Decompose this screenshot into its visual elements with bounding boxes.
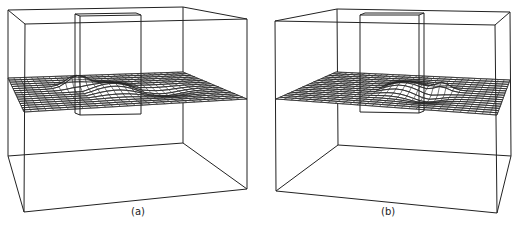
inner-block-side-edge — [75, 113, 80, 115]
inner-block-side-edge — [419, 111, 424, 113]
box-connect-edge — [275, 9, 337, 21]
box-connect-edge — [183, 7, 247, 19]
box-back-bottom-edge — [8, 143, 183, 156]
box-back-right-edge — [510, 12, 511, 156]
mesh-surface — [8, 72, 247, 112]
box-back-top-edge — [337, 9, 510, 12]
box-connect-edge — [183, 143, 247, 189]
box-front-left-edge — [24, 24, 25, 212]
panel-b-caption: (b) — [381, 207, 395, 217]
box-connect-edge — [8, 156, 24, 212]
box-front-right-edge — [495, 25, 497, 213]
panel-a-caption: (a) — [131, 207, 145, 217]
box-back-bottom-edge — [338, 145, 511, 156]
panel-a-surface-plot — [8, 7, 247, 212]
box-front-top-edge — [25, 19, 247, 24]
box-front-left-edge — [275, 21, 276, 191]
wireframe-figure — [0, 0, 520, 225]
panel-b-surface-plot — [275, 9, 511, 213]
inner-block-top-edge — [75, 13, 136, 14]
box-connect-edge — [497, 156, 511, 213]
box-back-top-edge — [8, 7, 183, 10]
mesh-surface — [276, 72, 510, 115]
box-connect-edge — [8, 10, 25, 24]
box-connect-edge — [495, 12, 510, 25]
box-connect-edge — [276, 145, 338, 191]
box-front-top-edge — [275, 21, 495, 25]
